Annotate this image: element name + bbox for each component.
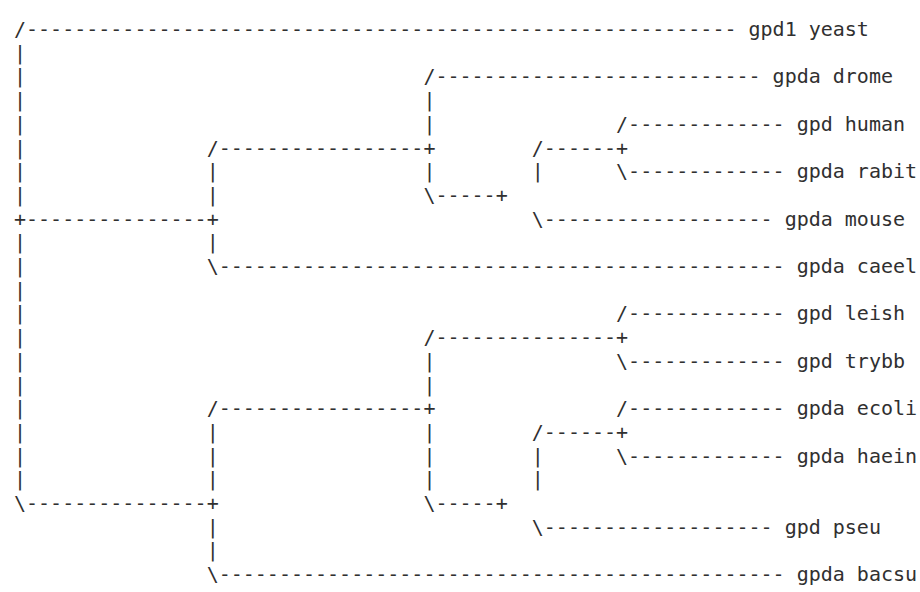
ascii-phylogenetic-tree: /---------------------------------------… — [14, 18, 917, 587]
ascii-tree-canvas: /---------------------------------------… — [0, 0, 920, 592]
